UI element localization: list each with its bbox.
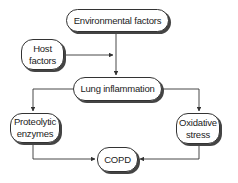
node-label: Host factors [28, 43, 58, 67]
node-environmental-factors: Environmental factors [66, 9, 169, 32]
node-copd: COPD [97, 147, 138, 172]
node-oxidative-stress: Oxidative stress [176, 113, 220, 144]
node-proteolytic-enzymes: Proteolytic enzymes [10, 113, 60, 143]
node-host-factors: Host factors [21, 39, 64, 70]
node-label: Oxidative stress [178, 117, 218, 141]
node-label: Environmental factors [74, 15, 162, 27]
node-lung-inflammation: Lung inflammation [73, 77, 162, 101]
node-label: Proteolytic enzymes [11, 116, 59, 140]
node-label: COPD [104, 154, 131, 166]
node-label: Lung inflammation [80, 83, 154, 95]
